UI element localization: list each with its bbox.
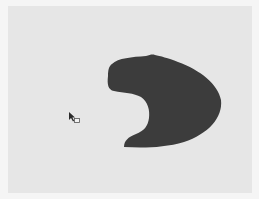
- dark-blob-shape[interactable]: [108, 55, 222, 148]
- mouse-cursor-copy-icon: [68, 111, 82, 125]
- viewport-frame: [0, 0, 259, 199]
- shape-layer: [0, 0, 259, 199]
